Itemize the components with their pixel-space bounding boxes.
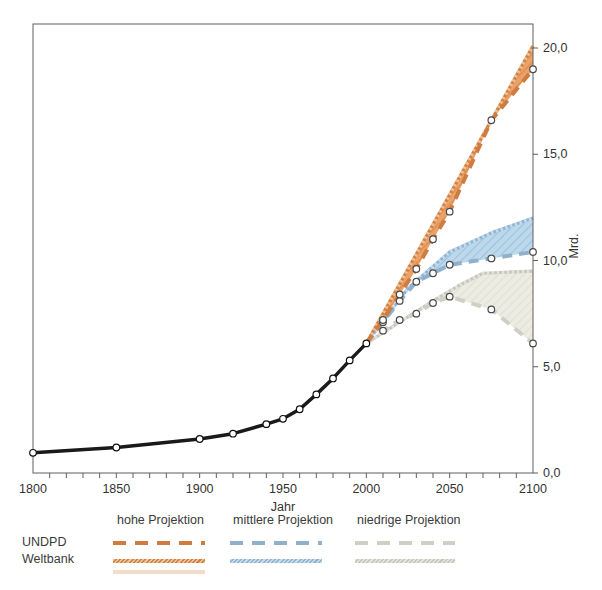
y-tick-label: 15,0 [543,147,567,161]
marker-historisch [230,430,237,437]
legend-swatch-weltbank-high [113,559,205,563]
marker-UNDPD-hoch [430,236,437,243]
marker-historisch [196,436,203,443]
y-tick-label: 0,0 [543,466,560,480]
x-tick-label: 1900 [186,482,214,496]
marker-UNDPD-hoch [488,117,495,124]
marker-UNDPD-mittel [530,249,537,256]
marker-UNDPD-mittel [446,261,453,268]
legend-swatch-weltbank-low [355,559,455,563]
legend-band-fill-strip [113,570,205,574]
legend-header-middle: mittlere Projektion [233,513,333,527]
y-tick-label: 5,0 [543,360,560,374]
marker-UNDPD-mittel [430,270,437,277]
legend-header-high: hohe Projektion [117,513,204,527]
marker-UNDPD-hoch [396,291,403,298]
marker-UNDPD-mittel [413,278,420,285]
marker-historisch [363,340,370,347]
y-tick-label: 10,0 [543,254,567,268]
marker-UNDPD-mittel [396,298,403,305]
marker-UNDPD-mittel [488,255,495,262]
legend-swatch-undpd-low [355,541,455,545]
x-tick-label: 1850 [102,482,130,496]
x-tick-label: 1800 [19,482,47,496]
x-tick-label: 2000 [352,482,380,496]
marker-historisch [113,444,120,451]
y-axis-title: Mrd. [567,222,583,270]
marker-UNDPD-hoch [446,208,453,215]
population-projection-chart: 18001850190019502000205021000,05,010,015… [0,0,602,590]
plot-canvas: 18001850190019502000205021000,05,010,015… [0,0,602,510]
x-tick-label: 2100 [519,482,547,496]
marker-historisch [313,391,320,398]
legend-row-undpd: UNDPD [22,535,66,549]
marker-UNDPD-niedrig [446,293,453,300]
x-tick-label: 2050 [436,482,464,496]
marker-historisch [30,450,37,457]
x-tick-label: 1950 [269,482,297,496]
marker-UNDPD-niedrig [530,340,537,347]
legend-row-weltbank: Weltbank [22,552,74,566]
marker-historisch [330,375,337,382]
legend-swatch-weltbank-middle [230,559,322,563]
marker-UNDPD-niedrig [488,306,495,313]
marker-UNDPD-niedrig [380,327,387,334]
marker-historisch [263,421,270,428]
marker-UNDPD-niedrig [396,317,403,324]
marker-UNDPD-hoch [530,66,537,73]
legend-swatch-undpd-middle [230,541,322,545]
marker-UNDPD-hoch [380,317,387,324]
tick-labels: 18001850190019502000205021000,05,010,015… [19,41,567,496]
marker-historisch [280,416,287,423]
marker-historisch [296,406,303,413]
marker-UNDPD-niedrig [430,300,437,307]
legend-header-low: niedrige Projektion [357,513,461,527]
x-axis-title: Jahr [233,500,333,514]
series-lines [33,46,533,453]
legend-swatch-undpd-high [113,541,205,545]
y-tick-label: 20,0 [543,41,567,55]
marker-historisch [346,357,353,364]
marker-UNDPD-niedrig [413,310,420,317]
marker-UNDPD-hoch [413,266,420,273]
